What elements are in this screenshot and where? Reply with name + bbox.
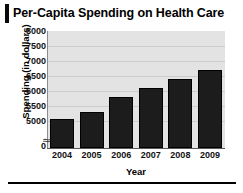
x-axis-line <box>47 148 225 149</box>
bar-2005 <box>80 112 104 148</box>
y-tick-label: 7000 <box>26 57 46 66</box>
axis-break-icon: ≈ <box>42 136 51 146</box>
bar-slot <box>50 31 74 148</box>
y-tick-label: 8000 <box>26 27 46 36</box>
x-tick-label: 2007 <box>137 150 165 164</box>
bottom-divider <box>8 182 236 184</box>
bar-2007 <box>139 88 163 148</box>
bar-slot <box>80 31 104 148</box>
bar-2009 <box>198 70 222 148</box>
title-accent-bar <box>5 4 9 23</box>
x-tick-label: 2006 <box>107 150 135 164</box>
x-axis-label: Year <box>47 166 225 177</box>
y-tick-label: 5500 <box>26 102 46 111</box>
x-axis-tick-labels: 2004 2005 2006 2007 2008 2009 <box>47 150 225 164</box>
bar-2006 <box>109 97 133 148</box>
x-tick-label: 2005 <box>78 150 106 164</box>
x-tick-label: 2004 <box>48 150 76 164</box>
title-row: Per-Capita Spending on Health Care <box>0 3 243 25</box>
page-title: Per-Capita Spending on Health Care <box>13 4 224 23</box>
bar-slot <box>139 31 163 148</box>
y-tick-label: 5000 <box>26 117 46 126</box>
bar-2008 <box>168 79 192 148</box>
x-tick-label: 2008 <box>166 150 194 164</box>
y-tick-label: 6500 <box>26 72 46 81</box>
x-tick-label: 2009 <box>196 150 224 164</box>
y-tick-label: 7500 <box>26 42 46 51</box>
bar-2004 <box>50 119 74 148</box>
bar-slot <box>168 31 192 148</box>
chart-container: Spending (in dollars) 8000 7500 7000 650… <box>0 26 243 166</box>
bar-slot <box>109 31 133 148</box>
y-tick-label: 6000 <box>26 87 46 96</box>
bar-slot <box>198 31 222 148</box>
chart-page: Per-Capita Spending on Health Care Spend… <box>0 0 243 193</box>
bar-series <box>47 31 225 148</box>
